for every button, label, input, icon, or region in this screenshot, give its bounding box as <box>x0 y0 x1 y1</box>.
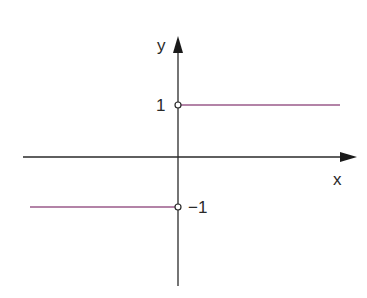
y-tick-label-1: 1 <box>156 96 165 115</box>
x-axis-label: x <box>333 170 342 189</box>
step-function-plot: y x 1 −1 <box>0 0 367 298</box>
y-tick-label-minus-1: −1 <box>188 198 207 217</box>
x-axis-arrow-icon <box>340 152 357 162</box>
open-circle-upper-icon <box>175 102 181 108</box>
y-axis-label: y <box>157 36 166 55</box>
y-axis-arrow-icon <box>173 36 183 53</box>
open-circle-lower-icon <box>175 204 181 210</box>
